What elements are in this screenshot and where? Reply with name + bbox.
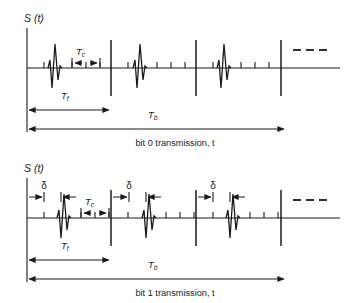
tb-sub-bit0: b xyxy=(154,114,158,121)
tc-sub-bit0: c xyxy=(82,51,86,58)
dimension-delta-bit1-frame3: δ xyxy=(198,180,245,202)
tb-sub-bit1: b xyxy=(154,264,158,271)
svg-text:Tf: Tf xyxy=(61,240,70,252)
dimension-tb-bit0: Tb xyxy=(29,109,284,129)
dimension-tf-bit1: Tf xyxy=(29,240,109,260)
svg-text:Tb: Tb xyxy=(148,109,158,121)
chip-ticks-bit1-frame2 xyxy=(128,212,194,218)
figure-root: S (t) xyxy=(0,0,349,303)
tf-sub-bit1: f xyxy=(67,245,70,252)
delta-label-bit1-frame2: δ xyxy=(126,180,132,191)
uwb-ppm-diagram: S (t) xyxy=(0,0,349,303)
svg-text:Tc: Tc xyxy=(85,196,95,208)
chip-ticks-bit1-frame3 xyxy=(213,212,278,218)
caption-bit1: bit 1 transmission, t xyxy=(135,288,215,298)
panel-bit1: S (t) xyxy=(24,162,340,298)
delta-label-bit1-frame1: δ xyxy=(41,180,47,191)
dimension-delta-bit1-frame2: δ xyxy=(113,180,161,202)
tf-sub-bit0: f xyxy=(67,95,70,102)
signal-label-bit1: S (t) xyxy=(24,162,44,174)
delta-label-bit1-frame3: δ xyxy=(210,180,216,191)
dimension-tb-bit1: Tb xyxy=(29,259,284,279)
svg-text:Tf: Tf xyxy=(61,90,70,102)
svg-text:Tb: Tb xyxy=(148,259,158,271)
dimension-tf-bit0: Tf xyxy=(29,90,109,110)
signal-label-bit0: S (t) xyxy=(24,12,44,24)
svg-text:Tc: Tc xyxy=(76,46,86,58)
caption-bit0: bit 0 transmission, t xyxy=(135,138,215,148)
chip-ticks-bit0-frame2 xyxy=(128,62,185,68)
dimension-delta-bit1-frame1: δ xyxy=(29,180,76,202)
chip-ticks-bit0-frame3 xyxy=(213,62,269,68)
panel-bit0: S (t) xyxy=(24,12,340,148)
tc-sub-bit1: c xyxy=(91,201,95,208)
